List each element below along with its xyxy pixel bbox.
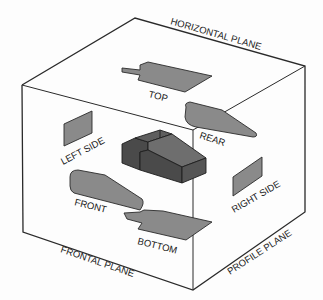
rear-view-label: REAR <box>198 129 227 148</box>
glass-box-svg: HORIZONTAL PLANE FRONTAL PLANE PROFILE P… <box>0 0 323 300</box>
top-view-label: TOP <box>148 88 169 103</box>
glass-box-diagram: HORIZONTAL PLANE FRONTAL PLANE PROFILE P… <box>0 0 323 300</box>
top-view-projection <box>122 62 212 92</box>
bottom-view-projection <box>124 210 212 240</box>
frontal-plane-label: FRONTAL PLANE <box>59 243 135 278</box>
profile-plane-label: PROFILE PLANE <box>225 227 293 277</box>
bottom-view-label: BOTTOM <box>137 235 179 255</box>
horizontal-plane-label: HORIZONTAL PLANE <box>169 15 262 51</box>
rear-view-projection <box>185 102 257 137</box>
